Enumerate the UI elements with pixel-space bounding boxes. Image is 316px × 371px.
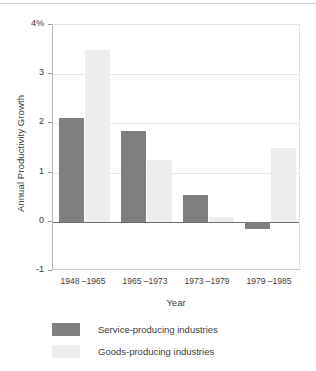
bar-1-1: [147, 160, 172, 222]
top-divider: [0, 3, 316, 4]
legend-label: Goods-producing industries: [98, 346, 214, 357]
y-tick-label: 1: [0, 166, 44, 176]
chart-legend: Service-producing industriesGoods-produc…: [52, 318, 300, 362]
bar-0-0: [59, 118, 84, 221]
x-tick-label: 1965 –1973: [114, 276, 176, 286]
x-axis-title: Year: [52, 297, 300, 308]
y-tick-label: 2: [0, 116, 44, 126]
legend-item: Goods-producing industries: [52, 340, 300, 362]
y-tick-mark: [48, 221, 52, 222]
y-tick-mark: [48, 172, 52, 173]
y-tick-mark: [48, 122, 52, 123]
plot-area: [52, 24, 300, 270]
legend-label: Service-producing industries: [98, 324, 218, 335]
y-tick-mark: [48, 270, 52, 271]
legend-swatch: [52, 323, 80, 336]
y-tick-mark: [48, 24, 52, 25]
y-tick-label: -1: [0, 264, 44, 274]
legend-item: Service-producing industries: [52, 318, 300, 340]
y-tick-label: 3: [0, 67, 44, 77]
bar-1-0: [85, 50, 110, 222]
bar-0-3: [245, 222, 270, 229]
x-tick-label: 1948 –1965: [52, 276, 114, 286]
bar-0-1: [121, 131, 146, 222]
bar-1-3: [271, 148, 296, 222]
y-tick-label: 4%: [0, 18, 44, 28]
bar-1-2: [209, 217, 234, 222]
y-tick-label: 0: [0, 215, 44, 225]
chart-figure: Annual Productivity Growth Year -101234%…: [0, 0, 316, 371]
bar-0-2: [183, 195, 208, 222]
x-tick-label: 1979 –1985: [238, 276, 300, 286]
x-tick-label: 1973 –1979: [176, 276, 238, 286]
y-tick-mark: [48, 73, 52, 74]
legend-swatch: [52, 345, 80, 358]
